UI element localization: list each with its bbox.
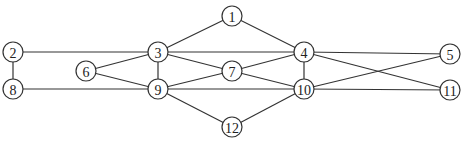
node-11: 11 — [440, 80, 460, 100]
node-3: 3 — [148, 42, 168, 62]
node-label: 4 — [301, 46, 308, 61]
node-2: 2 — [3, 42, 23, 62]
edge-4-5 — [304, 52, 450, 54]
node-label: 6 — [83, 65, 90, 80]
node-10: 10 — [294, 79, 314, 99]
node-label: 11 — [443, 84, 456, 99]
node-8: 8 — [3, 79, 23, 99]
edge-12-10 — [232, 89, 304, 127]
edge-7-4 — [232, 52, 304, 71]
node-label: 12 — [225, 121, 239, 136]
nodes-layer: 123456789101112 — [3, 6, 460, 137]
edge-1-3 — [158, 16, 232, 52]
node-5: 5 — [440, 44, 460, 64]
edge-10-11 — [304, 89, 450, 90]
node-label: 8 — [10, 83, 17, 98]
node-label: 7 — [229, 65, 236, 80]
node-4: 4 — [294, 42, 314, 62]
node-6: 6 — [76, 61, 96, 81]
node-label: 9 — [155, 83, 162, 98]
node-label: 5 — [447, 48, 454, 63]
edge-3-6 — [86, 52, 158, 71]
graph-diagram: 123456789101112 — [0, 0, 465, 141]
node-label: 1 — [229, 10, 236, 25]
node-label: 3 — [155, 46, 162, 61]
node-1: 1 — [222, 6, 242, 26]
node-label: 10 — [297, 83, 311, 98]
edge-6-9 — [86, 71, 158, 89]
edge-1-4 — [232, 16, 304, 52]
edge-3-7 — [158, 52, 232, 71]
node-label: 2 — [10, 46, 17, 61]
edge-7-10 — [232, 71, 304, 89]
node-7: 7 — [222, 61, 242, 81]
node-12: 12 — [222, 117, 242, 137]
node-9: 9 — [148, 79, 168, 99]
edge-9-12 — [158, 89, 232, 127]
edge-7-9 — [158, 71, 232, 89]
